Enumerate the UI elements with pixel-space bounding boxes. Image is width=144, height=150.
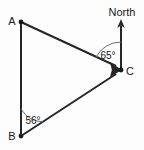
segment-bc-line [21,74,116,136]
vertex-label-a: A [8,15,16,27]
north-direction-label: North [109,6,136,18]
vertex-label-c: C [126,65,134,77]
vertex-label-b: B [8,130,15,142]
angle-label-at-c: 65° [100,50,115,61]
angle-label-at-b: 56° [25,115,40,126]
vertex-dot-c [119,68,124,73]
bearing-diagram: A B C North 65° 56° [0,0,144,150]
vertex-dot-b [19,134,24,139]
diagram-canvas: A B C North 65° 56° [0,0,144,150]
vertex-dot-a [19,20,24,25]
